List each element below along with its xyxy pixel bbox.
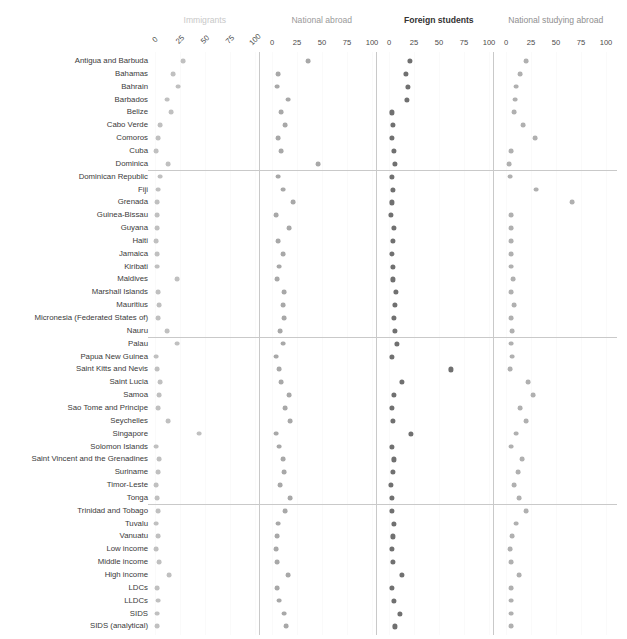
data-point	[509, 264, 514, 269]
data-point	[275, 534, 280, 539]
data-point	[291, 200, 296, 205]
chart-title	[0, 0, 627, 4]
gridline	[297, 52, 298, 635]
data-point	[155, 624, 160, 629]
data-point	[509, 624, 514, 629]
data-point	[154, 547, 159, 552]
data-point	[508, 367, 513, 372]
data-point	[286, 97, 291, 102]
data-point	[156, 470, 161, 475]
group-separator	[148, 504, 617, 505]
data-point	[524, 508, 529, 513]
row-label: Low income	[106, 545, 148, 553]
row-label: Bahamas	[115, 70, 148, 78]
facet-separator	[376, 52, 377, 635]
data-point	[509, 585, 514, 590]
data-point	[282, 290, 287, 295]
data-point	[276, 521, 281, 526]
tick-national_abroad-50: 50	[311, 38, 333, 47]
row-label: Cuba	[129, 147, 148, 155]
row-label: Saint Vincent and the Grenadines	[32, 455, 148, 463]
data-point	[284, 624, 289, 629]
row-label: Fiji	[138, 186, 148, 194]
data-point	[287, 226, 292, 231]
data-point	[448, 367, 453, 372]
data-point	[509, 598, 514, 603]
data-point	[276, 136, 281, 141]
data-point	[390, 238, 395, 243]
data-point	[282, 316, 287, 321]
facet-title-foreign_students: Foreign students	[373, 14, 505, 26]
data-point	[510, 534, 515, 539]
tick-national_studying_abroad-50: 50	[545, 38, 567, 47]
data-point	[274, 354, 279, 359]
gridline	[439, 52, 440, 635]
row-label: Bahrain	[121, 83, 148, 91]
data-point	[287, 393, 292, 398]
data-point	[390, 123, 395, 128]
row-label: Jamaica	[119, 250, 148, 258]
data-point	[509, 444, 514, 449]
row-label: Comoros	[116, 134, 148, 142]
data-point	[154, 354, 159, 359]
data-point	[508, 547, 513, 552]
data-point	[399, 380, 404, 385]
gridline	[255, 52, 256, 635]
data-point	[531, 393, 536, 398]
gridline	[180, 52, 181, 635]
data-point	[520, 457, 525, 462]
gridline	[556, 52, 557, 635]
data-point	[165, 328, 170, 333]
row-label: Saint Lucia	[109, 378, 148, 386]
data-point	[281, 341, 286, 346]
gridline	[322, 52, 323, 635]
row-label: Marshall Islands	[92, 288, 148, 296]
row-label: Suriname	[115, 468, 148, 476]
row-label: Cabo Verde	[107, 121, 148, 129]
row-label: Timor-Leste	[107, 481, 148, 489]
data-point	[393, 290, 398, 295]
data-point	[389, 251, 394, 256]
data-point	[277, 598, 282, 603]
data-point	[511, 277, 516, 282]
row-label: SIDS	[130, 610, 148, 618]
data-point	[275, 277, 280, 282]
data-point	[389, 405, 394, 410]
data-point	[508, 174, 513, 179]
gridline	[414, 52, 415, 635]
data-point	[509, 149, 514, 154]
data-point	[281, 187, 286, 192]
row-label: Barbados	[115, 96, 148, 104]
data-point	[306, 59, 311, 64]
facet-title-immigrants: Immigrants	[139, 14, 271, 26]
facet-title-national_abroad: National abroad	[256, 14, 388, 26]
data-point	[155, 611, 160, 616]
data-point	[517, 573, 522, 578]
data-point	[390, 187, 395, 192]
data-point	[389, 444, 394, 449]
row-label: Tuvalu	[125, 520, 148, 528]
data-point	[389, 200, 394, 205]
data-point	[279, 380, 284, 385]
data-point	[405, 84, 410, 89]
data-point	[521, 123, 526, 128]
row-label: Maldives	[117, 275, 148, 283]
data-point	[157, 560, 162, 565]
row-label: Guinea-Bissau	[97, 211, 148, 219]
tick-immigrants-50: 50	[194, 29, 216, 51]
tick-foreign_students-50: 50	[428, 38, 450, 47]
data-point	[392, 624, 397, 629]
data-point	[154, 238, 159, 243]
data-point	[154, 444, 159, 449]
gridline	[489, 52, 490, 635]
data-point	[392, 303, 397, 308]
data-point	[509, 560, 514, 565]
data-point	[166, 161, 171, 166]
gridline	[372, 52, 373, 635]
tick-national_abroad-25: 25	[286, 38, 308, 47]
data-point	[389, 110, 394, 115]
tick-national_studying_abroad-0: 0	[495, 38, 517, 47]
row-label: Kiribati	[124, 263, 148, 271]
tick-national_abroad-0: 0	[261, 38, 283, 47]
data-point	[390, 277, 395, 282]
